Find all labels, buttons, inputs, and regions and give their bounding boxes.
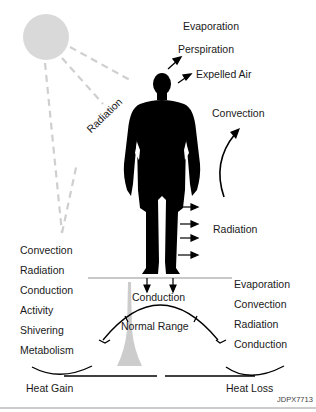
radiation-arrows (178, 204, 198, 258)
label-conduction-ground: Conduction (132, 292, 185, 303)
label-normal-range: Normal Range (121, 321, 189, 332)
heat-loss-item: Radiation (234, 319, 290, 330)
figure-id: JDPX7713 (277, 396, 313, 404)
label-convection-air: Convection (212, 108, 265, 119)
label-expelled-air: Expelled Air (196, 69, 251, 80)
heat-loss-item: Convection (234, 299, 290, 310)
radiation-rays (45, 47, 130, 233)
heat-gain-item: Metabolism (20, 345, 74, 356)
label-heat-loss: Heat Loss (226, 383, 273, 394)
heat-exchange-diagram: Evaporation Perspiration Expelled Air Co… (0, 0, 316, 412)
heat-gain-item: Convection (20, 245, 74, 256)
convection-arrow (220, 128, 240, 197)
label-evaporation: Evaporation (183, 21, 239, 32)
heat-loss-mechanisms: Evaporation Convection Radiation Conduct… (234, 279, 290, 359)
heat-gain-item: Conduction (20, 285, 74, 296)
balance-beam (32, 366, 284, 376)
conduction-arrows (144, 278, 176, 292)
heat-loss-item: Evaporation (234, 279, 290, 290)
label-perspiration: Perspiration (178, 44, 234, 55)
heat-gain-item: Shivering (20, 325, 74, 336)
heat-loss-item: Conduction (234, 339, 290, 350)
person-silhouette-icon (124, 73, 200, 274)
heat-gain-item: Radiation (20, 265, 74, 276)
heat-gain-mechanisms: Convection Radiation Conduction Activity… (20, 245, 74, 365)
sun-icon (23, 14, 69, 60)
label-radiation-body: Radiation (213, 224, 257, 235)
label-heat-gain: Heat Gain (26, 383, 73, 394)
heat-gain-item: Activity (20, 305, 74, 316)
expelled-air-arrows (168, 57, 191, 83)
